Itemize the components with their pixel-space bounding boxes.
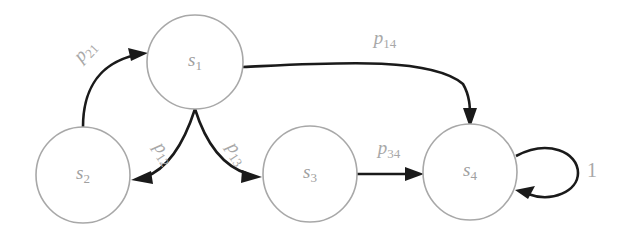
node-s3-label-sub: 3 xyxy=(310,170,317,185)
self-loop-s4[interactable]: 1 xyxy=(515,148,597,199)
node-s4[interactable]: s4 xyxy=(423,124,517,220)
edge-p14-label-sub: 14 xyxy=(383,36,397,51)
edge-p21[interactable]: p21 xyxy=(68,35,148,127)
node-s1-label-sub: 1 xyxy=(195,58,202,73)
state-transition-graph: p21 p14 p12 p13 xyxy=(0,0,626,241)
edge-p14[interactable]: p14 xyxy=(243,27,477,128)
edge-p13-label: p13 xyxy=(219,136,252,170)
edge-p14-path xyxy=(243,63,470,116)
node-s2[interactable]: s2 xyxy=(36,127,130,223)
edge-p21-label: p21 xyxy=(68,35,102,69)
node-s1-label-base: s xyxy=(188,49,195,70)
edge-p34[interactable]: p34 xyxy=(354,137,424,181)
edge-p34-label-base: p xyxy=(376,137,388,158)
edge-p14-label: p14 xyxy=(372,27,397,51)
node-s1[interactable]: s1 xyxy=(147,15,243,109)
edge-p14-label-base: p xyxy=(372,27,384,48)
edge-p21-arrowhead xyxy=(128,48,148,61)
edge-p34-label: p34 xyxy=(376,137,401,161)
edge-p34-arrowhead xyxy=(405,167,424,181)
edge-p13[interactable]: p13 xyxy=(195,109,262,183)
edge-p34-label-sub: 34 xyxy=(387,146,401,161)
node-s3[interactable]: s3 xyxy=(263,126,357,222)
node-s4-label-sub: 4 xyxy=(470,168,477,183)
edge-p13-arrowhead xyxy=(241,170,262,183)
edge-p21-path xyxy=(83,55,136,127)
state-diagram-canvas: p21 p14 p12 p13 xyxy=(0,0,626,241)
edge-p12[interactable]: p12 xyxy=(131,109,195,184)
self-loop-s4-arrowhead xyxy=(515,186,535,199)
node-s3-label-base: s xyxy=(303,161,310,182)
node-s4-label-base: s xyxy=(463,159,470,180)
node-s2-label-base: s xyxy=(76,162,83,183)
edge-p12-arrowhead xyxy=(131,171,153,184)
self-loop-s4-label: 1 xyxy=(587,159,597,181)
node-s2-label-sub: 2 xyxy=(83,171,90,186)
